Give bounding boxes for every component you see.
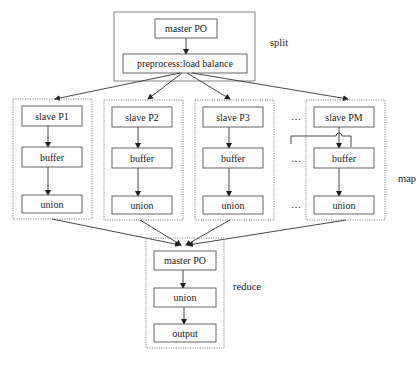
reduce-stage: master PO union output reduce [146, 238, 261, 348]
map-stage: slave P1 buffer union slave P2 buffer un… [13, 99, 416, 220]
split-stage-label: split [270, 37, 288, 48]
split-master-label: master PO [165, 23, 207, 34]
map-worker-2: slave P2 buffer union [104, 100, 183, 220]
ellipsis-row-1: … [291, 111, 301, 122]
preprocess-label: preprocess:load balance [137, 58, 233, 69]
buffer-label: buffer [221, 153, 246, 164]
feedback-line [291, 136, 351, 147]
slave-label: slave PM [325, 112, 363, 123]
reduce-union-label: union [174, 292, 197, 303]
mapreduce-diagram: master PO preprocess:load balance split … [0, 0, 420, 366]
map-worker-3: slave P3 buffer union [195, 100, 274, 220]
union-label: union [41, 199, 64, 210]
reduce-master-label: master PO [164, 255, 206, 266]
ellipsis-row-2: … [291, 153, 301, 164]
map-stage-label: map [398, 173, 416, 184]
slave-label: slave P1 [35, 111, 69, 122]
output-label: output [172, 328, 198, 339]
split-stage: master PO preprocess:load balance split [114, 12, 288, 81]
slave-label: slave P2 [125, 112, 159, 123]
ellipsis-row-3: … [291, 199, 301, 210]
map-worker-m: slave PM buffer union [291, 100, 385, 220]
buffer-label: buffer [332, 153, 357, 164]
union-label: union [222, 200, 245, 211]
reduce-stage-label: reduce [233, 281, 261, 292]
union-label: union [333, 200, 356, 211]
fanin-arrows [52, 219, 346, 245]
buffer-label: buffer [130, 153, 155, 164]
union-label: union [131, 200, 154, 211]
slave-label: slave P3 [216, 112, 250, 123]
fanout-arrows [55, 73, 348, 99]
map-worker-1: slave P1 buffer union [13, 99, 92, 219]
buffer-label: buffer [40, 152, 65, 163]
